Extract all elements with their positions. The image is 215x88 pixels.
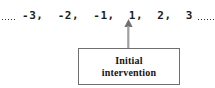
callout-line-1: Initial: [115, 55, 143, 66]
trailing-ellipsis: [197, 9, 215, 22]
number-line: -3, -2, -1, 1, 2, 3: [0, 6, 215, 24]
intervention-timeline-figure: -3, -2, -1, 1, 2, 3 Initial intervention: [0, 0, 215, 88]
leading-ellipsis: [0, 9, 18, 22]
time-point-sequence: -3, -2, -1, 1, 2, 3: [22, 9, 193, 22]
callout-line-2: intervention: [102, 67, 157, 78]
initial-intervention-callout-box: Initial intervention: [78, 48, 180, 85]
arrow-up-icon: [124, 19, 133, 49]
